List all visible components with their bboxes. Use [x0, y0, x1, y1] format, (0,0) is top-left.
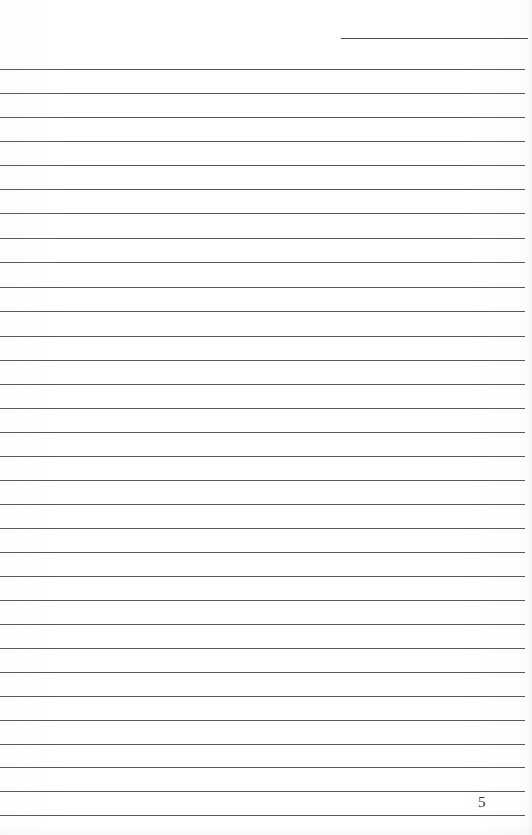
ruled-line [0, 648, 525, 649]
ruled-line [0, 791, 525, 792]
ruled-line [0, 336, 525, 337]
ruled-line [0, 744, 525, 745]
page-number: 5 [478, 795, 486, 810]
right-edge-shade [526, 0, 532, 835]
ruled-line [0, 720, 525, 721]
ruled-line [0, 600, 525, 601]
ruled-line [0, 672, 525, 673]
ruled-line [0, 552, 525, 553]
ruled-line [0, 189, 525, 190]
ruled-line [0, 213, 525, 214]
ruled-line [0, 360, 525, 361]
ruled-line [0, 815, 525, 816]
ruled-line [0, 408, 525, 409]
ruled-line [0, 767, 525, 768]
ruled-line [0, 528, 525, 529]
name-date-header-rule [341, 38, 528, 39]
ruled-line [0, 287, 525, 288]
ruled-line [0, 93, 525, 94]
ruled-line [0, 624, 525, 625]
bottom-edge-shade [0, 825, 532, 835]
ruled-line [0, 696, 525, 697]
ruled-line [0, 456, 525, 457]
ruled-line [0, 311, 525, 312]
ruled-line [0, 384, 525, 385]
paper-texture [0, 0, 532, 835]
ruled-line [0, 504, 525, 505]
ruled-line [0, 165, 525, 166]
ruled-line [0, 576, 525, 577]
ruled-line [0, 238, 525, 239]
ruled-line [0, 480, 525, 481]
ruled-line [0, 262, 525, 263]
document-page: 5 [0, 0, 532, 835]
ruled-line [0, 69, 525, 70]
ruled-line [0, 141, 525, 142]
ruled-line [0, 117, 525, 118]
ruled-line [0, 432, 525, 433]
